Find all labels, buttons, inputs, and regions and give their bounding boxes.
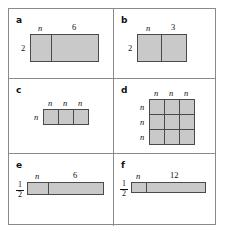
panel-d-square-r2c3 (179, 114, 195, 130)
panel-d-square-r2c2 (164, 114, 180, 130)
panel-b-left-label-2: 2 (128, 44, 132, 53)
panel-f: f n 12 1 2 (114, 154, 215, 226)
panel-e-top-label-n: n (35, 172, 39, 181)
panel-a-diagram: n 6 2 (9, 9, 113, 78)
panel-d-top-label-2: n (169, 89, 173, 98)
panel-f-segment-12 (146, 182, 206, 193)
panel-a-segment-n (30, 34, 52, 62)
panel-e-fraction-numerator: 1 (15, 181, 25, 189)
panel-e-fraction-denominator: 2 (15, 191, 25, 199)
panel-a-left-label-2: 2 (21, 44, 25, 53)
panel-f-fraction-denominator: 2 (119, 190, 129, 198)
panel-d: d n n n n n n (114, 79, 215, 153)
panel-d-diagram: n n n n n n (114, 79, 215, 153)
panel-d-square-r3c2 (164, 129, 180, 145)
panel-b-diagram: n 3 2 (114, 9, 215, 78)
panel-c-square-2 (58, 109, 74, 125)
panel-e-top-label-6: 6 (73, 171, 77, 180)
panel-d-square-r3c3 (179, 129, 195, 145)
panel-a-top-label-n: n (38, 24, 42, 33)
panel-b-top-label-3: 3 (171, 23, 175, 32)
panel-b: b n 3 2 (114, 9, 215, 78)
panel-d-square-r1c2 (164, 99, 180, 115)
panel-c-square-1 (43, 109, 59, 125)
panel-b-segment-3 (161, 34, 187, 62)
figure-frame: a n 6 2 b n 3 2 c (8, 8, 216, 225)
panel-c-diagram: n n n n (9, 79, 113, 153)
panel-d-square-r3c1 (149, 129, 165, 145)
panel-c-top-label-2: n (63, 99, 67, 108)
panel-c-left-label: n (34, 113, 38, 122)
panel-d-square-r1c1 (149, 99, 165, 115)
panel-d-left-label-2: n (140, 118, 144, 127)
panel-d-top-label-1: n (154, 89, 158, 98)
panel-f-left-fraction: 1 2 (119, 180, 129, 199)
panel-c-square-3 (73, 109, 89, 125)
panel-e-diagram: n 6 1 2 (9, 154, 113, 226)
panel-e-segment-6 (48, 182, 104, 195)
panel-d-square-r1c3 (179, 99, 195, 115)
panel-f-top-label-n: n (136, 172, 140, 181)
panel-d-left-label-1: n (140, 103, 144, 112)
panel-b-top-label-n: n (146, 24, 150, 33)
panel-a-segment-6 (51, 34, 99, 62)
panel-e-left-fraction: 1 2 (15, 181, 25, 200)
panel-a: a n 6 2 (9, 9, 113, 78)
panel-f-segment-n (131, 182, 147, 193)
panel-a-top-label-6: 6 (72, 23, 76, 32)
panel-c: c n n n n (9, 79, 113, 153)
panel-c-top-label-1: n (48, 99, 52, 108)
panel-c-top-label-3: n (78, 99, 82, 108)
panel-d-square-r2c1 (149, 114, 165, 130)
panel-d-top-label-3: n (184, 89, 188, 98)
panel-e: e n 6 1 2 (9, 154, 113, 226)
panel-f-top-label-12: 12 (170, 171, 179, 180)
panel-b-segment-n (137, 34, 162, 62)
panel-f-diagram: n 12 1 2 (114, 154, 215, 226)
panel-f-fraction-numerator: 1 (119, 180, 129, 188)
figure-canvas: a n 6 2 b n 3 2 c (0, 0, 225, 233)
panel-d-left-label-3: n (140, 133, 144, 142)
panel-e-segment-n (27, 182, 49, 195)
